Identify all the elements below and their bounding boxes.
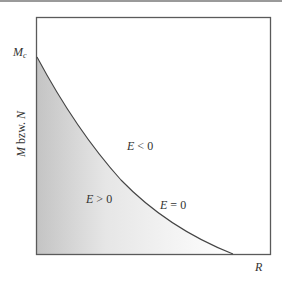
curve-label-e-zero: E = 0 bbox=[160, 199, 186, 211]
region-label-e-positive: E > 0 bbox=[86, 193, 112, 205]
bound-region-shading bbox=[37, 57, 233, 254]
y-axis-conjunction: bzw. bbox=[14, 119, 28, 147]
region-label-e-negative: E < 0 bbox=[127, 140, 153, 152]
mc-tick-label: Mc bbox=[13, 46, 27, 60]
value: 0 bbox=[106, 192, 112, 206]
value: 0 bbox=[180, 198, 186, 212]
mc-base: M bbox=[13, 45, 23, 59]
relation: > bbox=[93, 192, 106, 206]
value: 0 bbox=[147, 139, 153, 153]
x-axis-label: R bbox=[255, 261, 262, 273]
relation: = bbox=[167, 198, 180, 212]
y-axis-var-n: N bbox=[14, 111, 28, 119]
relation: < bbox=[134, 139, 147, 153]
y-axis-var-m: M bbox=[14, 147, 28, 157]
y-axis-label: M bzw. N bbox=[15, 111, 27, 157]
mc-subscript: c bbox=[23, 51, 27, 60]
